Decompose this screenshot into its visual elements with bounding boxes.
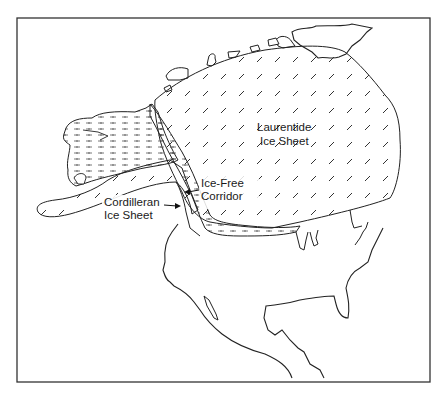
corridor-label-line1: Ice-Free [201,177,244,189]
cordilleran-label-line2: Ice Sheet [104,209,153,221]
laurentide-label-line2: Ice Sheet [260,135,309,147]
cordilleran-arrowhead [175,203,181,209]
baja-california [204,296,218,320]
hudson-bay-inlet-1 [296,232,308,250]
corridor-label-line2: Corridor [201,190,243,202]
arctic-island-small-6 [166,68,188,80]
hudson-bay-inlet-2 [310,230,318,246]
arctic-island-small-1 [276,36,295,48]
laurentide-label-line1: Laurentide [257,121,311,133]
north-america-east-coast [264,228,383,378]
laurentide-south-lobe [350,210,362,228]
cordilleran-label-line1: Cordilleran [104,196,160,208]
ice-age-map: Laurentide Ice Sheet Ice-Free Corridor C… [0,0,446,398]
north-america-west-coast [163,224,292,378]
newfoundland-coast [355,222,368,245]
